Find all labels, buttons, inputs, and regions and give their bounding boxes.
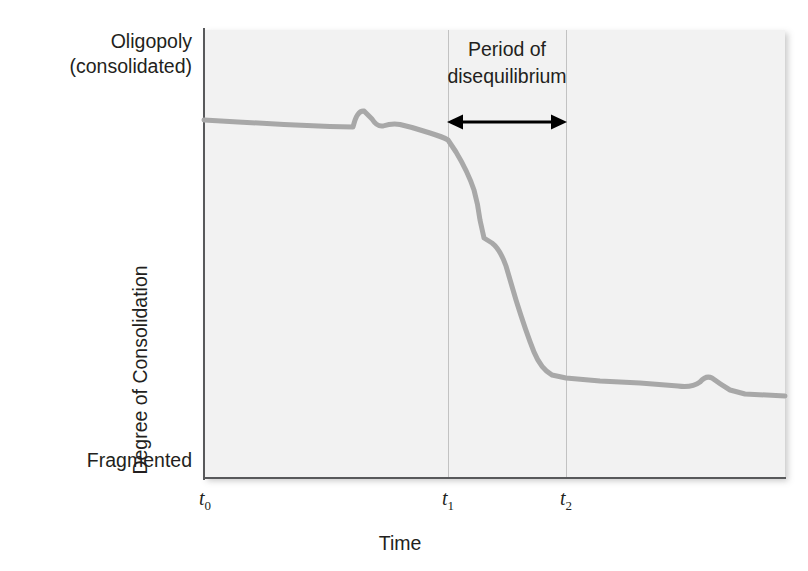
annotation-line2: disequilibrium bbox=[447, 65, 566, 87]
x-tick-t2-sub: 2 bbox=[566, 498, 573, 513]
gridline-t1 bbox=[448, 30, 449, 478]
annotation-line1: Period of bbox=[468, 38, 546, 60]
plot-area bbox=[204, 30, 785, 478]
y-axis-top-label: Oligopoly(consolidated) bbox=[0, 29, 192, 79]
x-tick-label-t2: t2 bbox=[536, 487, 596, 514]
y-axis-title: Degree of Consolidation bbox=[129, 230, 152, 510]
x-tick-label-t1: t1 bbox=[418, 487, 478, 514]
chart-figure: Oligopoly(consolidated) Fragmented Degre… bbox=[0, 0, 808, 571]
y-axis-top-label-line2: (consolidated) bbox=[70, 55, 192, 77]
y-axis-top-label-line1: Oligopoly bbox=[111, 30, 192, 52]
x-axis-line bbox=[203, 477, 786, 479]
x-tick-t1-sub: 1 bbox=[448, 498, 455, 513]
y-axis-line bbox=[203, 28, 205, 480]
gridline-t2 bbox=[566, 30, 567, 478]
y-axis-bottom-label: Fragmented bbox=[0, 448, 192, 473]
disequilibrium-annotation-text: Period ofdisequilibrium bbox=[407, 36, 607, 90]
x-tick-label-t0: t0 bbox=[175, 487, 235, 514]
x-axis-title: Time bbox=[300, 531, 500, 556]
x-tick-t0-sub: 0 bbox=[205, 498, 212, 513]
